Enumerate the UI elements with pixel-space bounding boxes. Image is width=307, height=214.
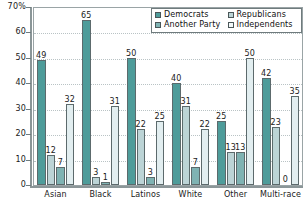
x-axis-tick-label: Other (224, 191, 247, 199)
legend-swatch-icon (228, 12, 234, 18)
x-axis-line (30, 186, 303, 188)
bar: 32 (66, 104, 75, 185)
y-axis-tick-label: 60 (15, 28, 26, 36)
bar: 31 (111, 106, 120, 185)
bar-value-label: 0 (283, 176, 288, 184)
bar: 13 (236, 152, 245, 185)
bar: 42 (262, 78, 271, 185)
y-axis-tick-mark (26, 7, 31, 8)
bar-value-label: 35 (290, 88, 300, 96)
bar-group: 4912732 (37, 7, 74, 185)
y-axis-tick-mark (26, 58, 31, 59)
bar-value-label: 13 (235, 144, 245, 152)
legend-label: Republicans (237, 11, 286, 19)
bar: 50 (246, 58, 255, 185)
legend-label: Independents (237, 21, 293, 29)
bar-value-label: 40 (171, 75, 181, 83)
legend-label: Democrats (164, 11, 209, 19)
legend-label: Another Party (164, 21, 220, 29)
legend-item[interactable]: Another Party (155, 21, 226, 29)
bar-chart: 010203040506070% 49127326531315022325403… (0, 0, 307, 214)
bar-value-label: 50 (126, 50, 136, 58)
bar: 1 (101, 182, 110, 185)
bar-group: 25131350 (217, 7, 254, 185)
bar: 3 (92, 177, 101, 185)
bar: 12 (47, 155, 56, 186)
bar-value-label: 25 (216, 113, 226, 121)
bar-value-label: 50 (245, 50, 255, 58)
x-axis: AsianBlackLatinosWhiteOtherMulti-race (33, 191, 303, 209)
y-axis-tick-mark (26, 160, 31, 161)
bar-group: 5022325 (127, 7, 164, 185)
legend-item[interactable]: Republicans (228, 11, 299, 19)
y-axis-tick-label: 10 (15, 156, 26, 164)
bar: 7 (191, 167, 200, 185)
bar-value-label: 12 (46, 147, 56, 155)
bar-value-label: 22 (200, 121, 210, 129)
bar: 65 (82, 20, 91, 185)
bar-value-label: 65 (81, 12, 91, 20)
y-axis-tick-mark (26, 109, 31, 110)
y-axis-tick-mark (26, 83, 31, 84)
legend-swatch-icon (155, 12, 161, 18)
legend: DemocratsRepublicansAnother PartyIndepen… (151, 8, 302, 33)
bar: 40 (172, 83, 181, 185)
bar-value-label: 49 (36, 52, 46, 60)
bar-value-label: 31 (181, 98, 191, 106)
bar-value-label: 1 (103, 174, 108, 182)
bar-value-label: 7 (193, 159, 198, 167)
bar-value-label: 25 (155, 113, 165, 121)
bar-group: 653131 (82, 7, 119, 185)
bar: 50 (127, 58, 136, 185)
y-axis-tick-label: 20 (15, 130, 26, 138)
bars-layer: 4912732653131502232540317222513135042230… (33, 7, 303, 185)
bar-value-label: 7 (58, 159, 63, 167)
y-axis: 010203040506070% (0, 0, 29, 186)
bar: 49 (37, 60, 46, 185)
legend-swatch-icon (155, 22, 161, 28)
bar-value-label: 31 (110, 98, 120, 106)
x-axis-tick-label: Latinos (131, 191, 161, 199)
bar: 35 (291, 96, 300, 185)
bar-group: 4223035 (262, 7, 299, 185)
bar: 22 (201, 129, 210, 185)
x-axis-tick-label: Multi-race (260, 191, 301, 199)
bar-value-label: 32 (65, 96, 75, 104)
legend-item[interactable]: Independents (228, 21, 299, 29)
y-axis-tick-mark (26, 32, 31, 33)
legend-swatch-icon (228, 22, 234, 28)
bar-value-label: 42 (261, 70, 271, 78)
y-axis-tick-mark (26, 134, 31, 135)
bar: 23 (272, 127, 281, 185)
bar-value-label: 3 (148, 169, 153, 177)
bar: 3 (146, 177, 155, 185)
bar: 22 (137, 129, 146, 185)
y-axis-tick-label: 30 (15, 105, 26, 113)
y-axis-tick-mark (26, 185, 31, 186)
bar: 13 (227, 152, 236, 185)
x-axis-tick-label: White (179, 191, 203, 199)
y-axis-tick-label: 70% (8, 3, 26, 11)
y-axis-tick-label: 50 (15, 54, 26, 62)
x-axis-tick-label: Black (89, 191, 111, 199)
bar-value-label: 22 (136, 121, 146, 129)
bar: 25 (217, 121, 226, 185)
bar-value-label: 23 (271, 119, 281, 127)
bar: 25 (156, 121, 165, 185)
legend-item[interactable]: Democrats (155, 11, 226, 19)
bar-value-label: 3 (93, 169, 98, 177)
y-axis-tick-label: 40 (15, 79, 26, 87)
x-axis-tick-label: Asian (44, 191, 66, 199)
bar: 31 (182, 106, 191, 185)
bar-group: 4031722 (172, 7, 209, 185)
bar: 7 (56, 167, 65, 185)
